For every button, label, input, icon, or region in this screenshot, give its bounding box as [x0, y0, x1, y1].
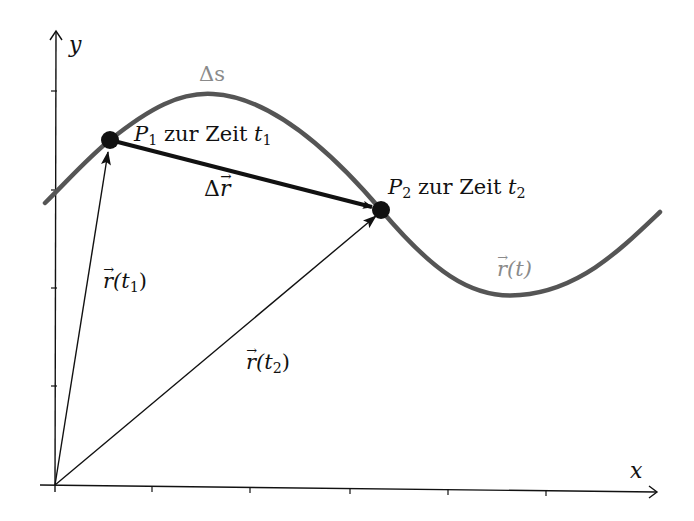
x-axis-label: x [630, 460, 642, 482]
vector-delta-r [110, 140, 372, 207]
arc-length-label: Δs [199, 64, 225, 85]
r-t1-label: r(t1) [103, 271, 147, 295]
motion-diagram [0, 0, 694, 521]
vector-r-t2 [55, 216, 376, 485]
point-p1 [101, 131, 119, 149]
delta-r-label: Δr [204, 178, 230, 200]
y-axis [50, 31, 62, 492]
r-t2-label: r(t2) [246, 352, 290, 376]
x-axis [40, 485, 657, 498]
y-axis-label: y [69, 34, 81, 56]
point-p2 [372, 201, 390, 219]
point-p2-label: P2 zur Zeit t2 [388, 177, 526, 201]
curve-label: r(t) [497, 259, 532, 280]
point-p1-label: P1 zur Zeit t1 [134, 124, 272, 148]
vector-r-t1 [55, 152, 108, 485]
